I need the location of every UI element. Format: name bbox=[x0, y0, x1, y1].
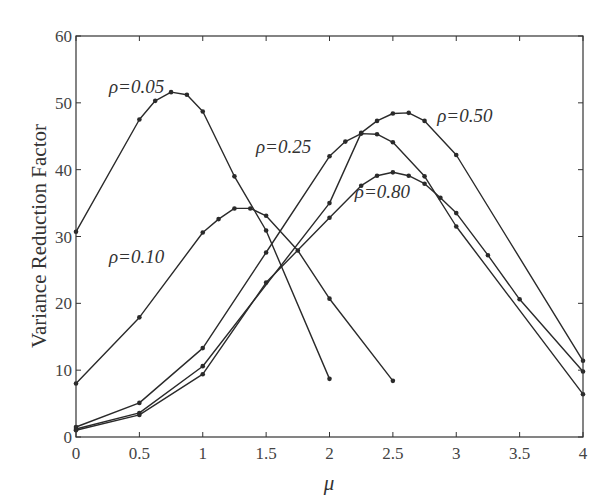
data-point-marker bbox=[422, 174, 427, 179]
x-tick-label: 0 bbox=[72, 444, 81, 463]
data-point-marker bbox=[327, 296, 332, 301]
data-point-marker bbox=[137, 401, 142, 406]
data-point-marker bbox=[169, 90, 174, 95]
y-tick-label: 0 bbox=[64, 428, 73, 447]
y-tick-label: 20 bbox=[55, 294, 72, 313]
series-rho-050 bbox=[74, 111, 586, 432]
data-point-marker bbox=[454, 153, 459, 158]
data-point-marker bbox=[327, 377, 332, 382]
series-rho-005 bbox=[74, 90, 332, 381]
data-point-marker bbox=[391, 379, 396, 384]
data-point-marker bbox=[248, 206, 253, 211]
series-line bbox=[76, 113, 583, 429]
data-point-marker bbox=[232, 174, 237, 179]
data-point-marker bbox=[454, 211, 459, 216]
data-point-marker bbox=[391, 170, 396, 175]
data-point-marker bbox=[264, 213, 269, 218]
line-chart: ρ=0.05ρ=0.10ρ=0.25ρ=0.50ρ=0.80 00.511.52… bbox=[0, 0, 616, 504]
data-point-marker bbox=[137, 413, 142, 418]
x-tick-label: 2.5 bbox=[382, 444, 403, 463]
data-point-marker bbox=[422, 119, 427, 124]
data-point-marker bbox=[359, 131, 364, 136]
series-label-rho-080: ρ=0.80 bbox=[354, 181, 411, 202]
series-labels: ρ=0.05ρ=0.10ρ=0.25ρ=0.50ρ=0.80 bbox=[108, 76, 493, 267]
series-line bbox=[76, 134, 583, 427]
x-tick-label: 4 bbox=[579, 444, 588, 463]
y-tick-label: 50 bbox=[55, 94, 72, 113]
data-point-marker bbox=[486, 253, 491, 258]
data-point-marker bbox=[232, 206, 237, 211]
y-tick-label: 40 bbox=[55, 161, 72, 180]
data-point-marker bbox=[517, 297, 522, 302]
data-point-marker bbox=[343, 139, 348, 144]
series-label-rho-005: ρ=0.05 bbox=[108, 76, 164, 97]
data-point-marker bbox=[200, 372, 205, 377]
series-rho-025 bbox=[74, 131, 586, 429]
series-rho-010 bbox=[74, 206, 395, 386]
data-point-marker bbox=[375, 119, 380, 124]
x-tick-label: 0.5 bbox=[129, 444, 150, 463]
data-point-marker bbox=[200, 346, 205, 351]
data-point-marker bbox=[216, 217, 221, 222]
data-point-marker bbox=[185, 93, 190, 98]
series-line bbox=[76, 208, 393, 383]
y-axis-label: Variance Reduction Factor bbox=[27, 124, 51, 348]
x-tick-label: 1 bbox=[199, 444, 208, 463]
data-point-marker bbox=[327, 154, 332, 159]
data-point-marker bbox=[200, 364, 205, 369]
x-tick-label: 3.5 bbox=[509, 444, 530, 463]
series-label-rho-025: ρ=0.25 bbox=[255, 136, 311, 157]
data-point-marker bbox=[137, 117, 142, 122]
data-point-marker bbox=[153, 99, 158, 104]
data-point-marker bbox=[375, 173, 380, 178]
data-point-marker bbox=[406, 173, 411, 178]
x-tick-label: 3 bbox=[452, 444, 461, 463]
data-point-marker bbox=[264, 280, 269, 285]
y-tick-label: 30 bbox=[55, 228, 72, 247]
y-tick-label: 60 bbox=[55, 27, 72, 46]
data-point-marker bbox=[375, 132, 380, 137]
data-point-marker bbox=[200, 109, 205, 114]
data-point-marker bbox=[406, 111, 411, 116]
y-tick-label: 10 bbox=[55, 361, 72, 380]
data-point-marker bbox=[391, 111, 396, 116]
x-tick-label: 2 bbox=[325, 444, 334, 463]
data-point-marker bbox=[264, 228, 269, 233]
data-point-marker bbox=[327, 201, 332, 206]
data-point-marker bbox=[137, 315, 142, 320]
data-point-marker bbox=[391, 140, 396, 145]
data-point-marker bbox=[200, 230, 205, 235]
data-point-marker bbox=[422, 181, 427, 186]
data-point-marker bbox=[454, 224, 459, 229]
x-tick-label: 1.5 bbox=[256, 444, 277, 463]
series-label-rho-010: ρ=0.10 bbox=[108, 246, 165, 267]
data-point-marker bbox=[438, 195, 443, 200]
data-point-marker bbox=[264, 250, 269, 255]
x-axis-label: μ bbox=[323, 471, 335, 495]
data-point-marker bbox=[327, 215, 332, 220]
series-label-rho-050: ρ=0.50 bbox=[436, 105, 493, 126]
